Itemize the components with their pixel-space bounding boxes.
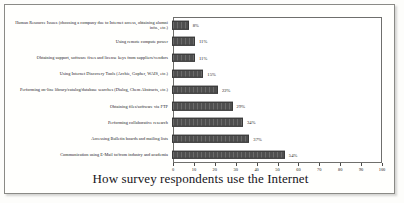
category-label: Accessing Bulletin boards and mailing li… — [5, 136, 171, 141]
bar-value-label: 8% — [193, 23, 199, 28]
category-label: Performing on-line library/catalog/datab… — [5, 87, 171, 92]
x-tick-mark — [298, 163, 299, 166]
category-label: Performing collaborative research — [5, 120, 171, 125]
bar-value-label: 34% — [247, 120, 255, 125]
bar-track: 54% — [171, 147, 380, 163]
bar-value-label: 15% — [207, 71, 215, 76]
category-label: Using Internet Discovery Tools (Archie, … — [5, 71, 171, 76]
category-label: Using remote compute power — [5, 39, 171, 44]
bar — [172, 37, 195, 46]
bar — [172, 21, 189, 30]
x-tick-mark — [278, 163, 279, 166]
bar-row: Accessing Bulletin boards and mailing li… — [5, 131, 382, 147]
bar-track: 29% — [171, 98, 380, 114]
figure: Human Resource Issues (choosing a compan… — [0, 0, 404, 203]
bar-row: Human Resource Issues (choosing a compan… — [5, 17, 382, 33]
bar-track: 11% — [171, 33, 380, 49]
category-label: Obtaining files/software via FTP — [5, 104, 171, 109]
x-tick-mark — [340, 163, 341, 166]
bar — [172, 102, 233, 111]
bar-track: 34% — [171, 114, 380, 130]
bar-row: Communication using E-Mail to/from indus… — [5, 147, 382, 163]
bar-track: 15% — [171, 66, 380, 82]
bar-value-label: 11% — [199, 55, 207, 60]
bar-value-label: 22% — [222, 87, 230, 92]
category-label: Obtaining support, software fixes and li… — [5, 55, 171, 60]
bar — [172, 86, 218, 95]
category-label: Communication using E-Mail to/from indus… — [5, 152, 171, 157]
bar-value-label: 11% — [199, 39, 207, 44]
bar — [172, 70, 203, 79]
bar — [172, 118, 243, 127]
bar-row: Performing on-line library/catalog/datab… — [5, 82, 382, 98]
chart-title: How survey respondents use the Internet — [5, 171, 396, 187]
x-tick-mark — [173, 163, 174, 166]
figure-border: Human Resource Issues (choosing a compan… — [4, 4, 395, 194]
bar-track: 8% — [171, 17, 380, 33]
bar-value-label: 37% — [253, 136, 261, 141]
x-tick-mark — [215, 163, 216, 166]
bar — [172, 151, 285, 160]
x-tick-mark — [361, 163, 362, 166]
bar — [172, 134, 249, 143]
x-tick-mark — [257, 163, 258, 166]
bar-row: Performing collaborative research34% — [5, 114, 382, 130]
bar-row: Using remote compute power11% — [5, 33, 382, 49]
x-tick-mark — [194, 163, 195, 166]
bar-row: Using Internet Discovery Tools (Archie, … — [5, 66, 382, 82]
bar-track: 22% — [171, 82, 380, 98]
bar-value-label: 54% — [289, 152, 297, 157]
bar — [172, 53, 195, 62]
bar-rows: Human Resource Issues (choosing a compan… — [5, 17, 382, 163]
bar-chart: Human Resource Issues (choosing a compan… — [5, 5, 396, 195]
x-tick-mark — [382, 163, 383, 166]
bar-row: Obtaining support, software fixes and li… — [5, 49, 382, 65]
bar-track: 37% — [171, 131, 380, 147]
bar-track: 11% — [171, 49, 380, 65]
x-tick-mark — [236, 163, 237, 166]
bar-row: Obtaining files/software via FTP29% — [5, 98, 382, 114]
category-label: Human Resource Issues (choosing a compan… — [5, 20, 171, 30]
bar-value-label: 29% — [237, 104, 245, 109]
x-tick-mark — [319, 163, 320, 166]
